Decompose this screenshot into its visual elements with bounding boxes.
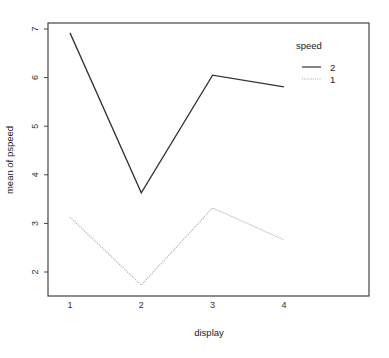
x-axis: 1234	[67, 300, 286, 310]
x-tick-label: 1	[67, 300, 72, 310]
y-axis-title: mean of pspeed	[4, 126, 15, 194]
legend: speed 21	[296, 40, 335, 85]
x-tick-label: 4	[281, 300, 286, 310]
y-tick-label: 4	[30, 172, 40, 177]
series-line-speed-2	[70, 33, 284, 193]
x-tick-label: 2	[139, 300, 144, 310]
y-tick-label: 5	[30, 124, 40, 129]
x-tick-label: 3	[210, 300, 215, 310]
y-tick-label: 3	[30, 221, 40, 226]
y-tick-label: 2	[30, 269, 40, 274]
interaction-plot: 234567 1234 mean of pspeed display speed…	[0, 0, 389, 358]
series-lines	[70, 33, 284, 285]
legend-label-1: 1	[330, 74, 335, 85]
y-axis: 234567	[30, 26, 48, 274]
series-line-speed-1	[70, 208, 284, 285]
y-tick-label: 6	[30, 75, 40, 80]
x-axis-title: display	[194, 327, 224, 338]
y-tick-label: 7	[30, 26, 40, 31]
legend-label-2: 2	[330, 62, 335, 73]
plot-frame	[48, 23, 369, 296]
legend-title: speed	[296, 40, 322, 51]
